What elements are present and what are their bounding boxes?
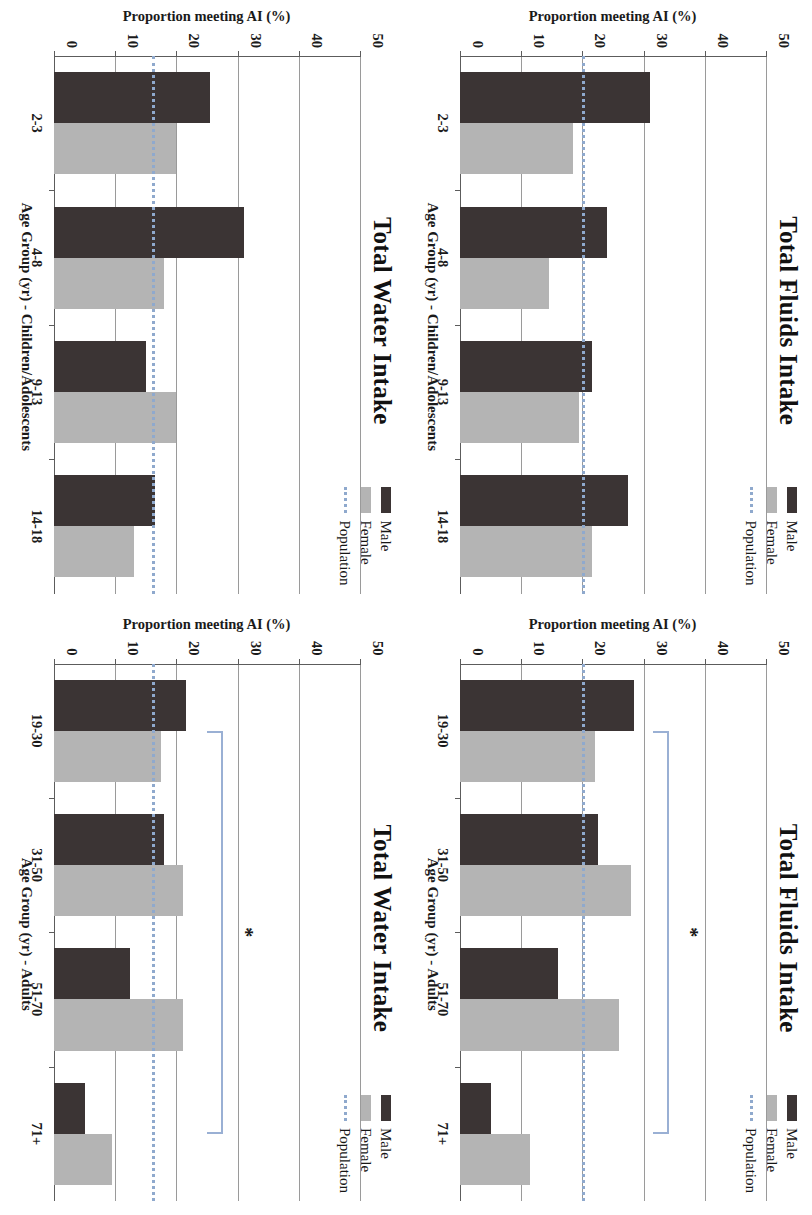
significance-bracket [653,731,669,1134]
legend-item-male: Male [782,487,802,585]
bar-group [54,459,360,593]
bar-group [54,325,360,459]
y-axis-tick-mark [766,51,767,57]
bar-male [54,475,155,526]
bar-group [460,325,766,459]
y-axis-tick-label: 40 [307,34,324,49]
bar-male [460,948,558,999]
y-axis-tick-label: 40 [307,641,324,656]
panel-total-fluids-adults: Total Fluids Intake Male Female Populati… [406,608,812,1215]
y-axis-label: Proportion meeting AI (%) [460,616,766,634]
bar-male [460,475,628,526]
x-axis-tick-mark [49,190,55,191]
y-axis-label: Proportion meeting AI (%) [460,8,766,26]
bar-male [54,814,164,865]
bar-male [54,948,131,999]
gridline [360,664,361,1202]
x-axis-tick-mark [455,1067,461,1068]
y-axis-tick-label: 10 [124,641,141,656]
bar-male [54,680,186,731]
y-axis-tick-label: 0 [63,648,80,655]
legend-label-male: Male [782,1128,802,1159]
x-axis-tick-mark [49,798,55,799]
legend-swatch-female-icon [767,1095,777,1121]
population-reference-line [152,664,155,1202]
y-axis-tick-label: 10 [530,34,547,49]
x-axis-label: Age Group (yr) - Children/Adolescents [18,46,35,608]
bar-female [54,999,183,1050]
plot-area-wrapper: Proportion meeting AI (%) 01020304050 19… [460,618,766,1202]
bar-male [460,72,650,123]
bar-female [460,392,579,443]
bar-series-container [460,56,766,594]
y-axis-tick-label: 30 [246,641,263,656]
bar-female [54,865,183,916]
plot-area-wrapper: Proportion meeting AI (%) 01020304050 2-… [54,10,360,594]
bar-female [54,731,161,782]
plot-area-wrapper: Proportion meeting AI (%) 01020304050 2-… [460,10,766,594]
gridline [766,56,767,594]
y-axis-ticks: 01020304050 [54,634,360,660]
figure-rotation-wrapper: Total Fluids Intake Male Female Populati… [0,0,812,1215]
y-axis-tick-label: 10 [124,34,141,49]
bar-male [460,341,592,392]
bar-series-container [54,56,360,594]
y-axis-tick-mark [360,659,361,665]
legend-swatch-male-icon [787,1095,797,1121]
x-axis-tick-mark [455,459,461,460]
x-axis-tick-mark [455,798,461,799]
population-reference-line [582,56,585,594]
legend-swatch-male-icon [381,487,391,513]
legend-swatch-male-icon [381,1095,391,1121]
bar-male [54,207,244,258]
significance-asterisk: * [236,927,256,937]
population-reference-line [582,664,585,1202]
y-axis-ticks: 01020304050 [460,26,766,52]
gridline [766,664,767,1202]
bar-female [54,392,176,443]
x-axis-tick-mark [49,459,55,460]
bar-female [54,258,164,309]
panel-total-water-children: Total Water Intake Male Female Populatio… [0,0,406,608]
plot: 19-3031-5051-7071+* [54,664,360,1202]
bar-group [54,56,360,190]
y-axis-tick-label: 20 [591,641,608,656]
legend-swatch-female-icon [767,487,777,513]
y-axis-ticks: 01020304050 [54,26,360,52]
x-axis-label: Age Group (yr) - Children/Adolescents [424,46,441,608]
plot: 19-3031-5051-7071+* [460,664,766,1202]
bar-female [460,731,595,782]
y-axis-tick-label: 0 [469,41,486,48]
y-axis-tick-label: 10 [530,641,547,656]
legend-item-male: Male [782,1095,802,1193]
y-axis-tick-label: 50 [775,34,792,49]
plot-area-wrapper: Proportion meeting AI (%) 01020304050 19… [54,618,360,1202]
y-axis-label: Proportion meeting AI (%) [54,8,360,26]
plot: 2-34-89-1314-18 [54,56,360,594]
bar-male [460,814,598,865]
x-axis-label: Age Group (yr) - Adults [424,654,441,1215]
population-reference-line [152,56,155,594]
bar-female [460,1134,530,1185]
y-axis-label: Proportion meeting AI (%) [54,616,360,634]
y-axis-tick-label: 30 [652,641,669,656]
bar-group [54,190,360,324]
bar-female [460,123,573,174]
bar-group [460,1067,766,1201]
bar-female [460,258,549,309]
bar-male [460,1083,491,1134]
y-axis-ticks: 01020304050 [460,634,766,660]
y-axis-tick-label: 20 [185,34,202,49]
panel-total-fluids-children: Total Fluids Intake Male Female Populati… [406,0,812,608]
legend-swatch-female-icon [361,1095,371,1121]
y-axis-tick-label: 50 [775,641,792,656]
legend-item-male: Male [376,487,396,585]
x-axis-tick-mark [49,1067,55,1068]
y-axis-tick-label: 0 [469,648,486,655]
y-axis-tick-label: 40 [713,34,730,49]
bar-male [54,72,210,123]
y-axis-tick-label: 0 [63,41,80,48]
legend-swatch-female-icon [361,487,371,513]
significance-bracket [207,731,223,1134]
y-axis-tick-label: 20 [591,34,608,49]
